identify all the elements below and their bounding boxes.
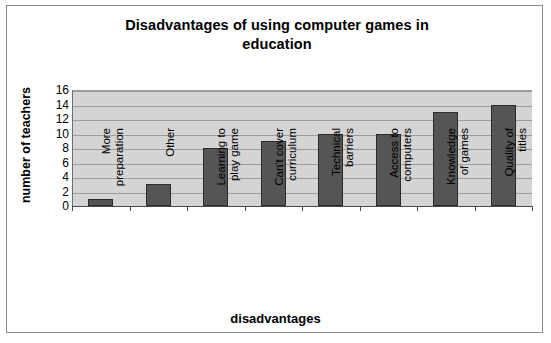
x-axis-category-label: Access to — [388, 128, 401, 214]
y-axis-tick-label: 6 — [47, 157, 69, 169]
x-axis-tickmark — [72, 207, 73, 211]
y-axis-tick-label: 8 — [47, 142, 69, 154]
x-axis-category-label: computers — [401, 128, 414, 214]
x-axis-category-label: preparation — [113, 128, 126, 214]
chart-container: Disadvantages of using computer games in… — [6, 5, 543, 333]
x-axis-tickmark — [360, 207, 361, 211]
gridline — [73, 120, 532, 121]
chart-title: Disadvantages of using computer games in… — [47, 16, 507, 54]
x-axis-category-label: barriers — [343, 128, 356, 214]
y-axis-tick-label: 0 — [47, 200, 69, 212]
y-axis-tick-label: 12 — [47, 113, 69, 125]
x-axis-tickmark — [302, 207, 303, 211]
x-axis-category-label: play game — [228, 128, 241, 214]
y-axis-tick-labels: 1614121086420 — [43, 6, 69, 333]
x-axis-tickmark — [245, 207, 246, 211]
y-axis-tick-label: 14 — [47, 99, 69, 111]
x-axis-category-label: Knowledge — [445, 128, 458, 214]
x-axis-category-label: Technical — [330, 128, 343, 214]
x-axis-tickmark — [417, 207, 418, 211]
x-axis-category-label: curriculum — [286, 128, 299, 214]
x-axis-category-label: Can't cover — [273, 128, 286, 214]
chart-title-line-2: education — [47, 35, 507, 54]
y-axis-tick-label: 4 — [47, 171, 69, 183]
x-axis-tickmark — [532, 207, 533, 211]
x-axis-tickmark — [187, 207, 188, 211]
x-axis-category-label: Quality of — [503, 128, 516, 214]
x-axis-category-label: More — [100, 128, 113, 214]
x-axis-title: disadvantages — [7, 311, 543, 326]
y-axis-tick-label: 16 — [47, 84, 69, 96]
x-axis-category-label: titles — [516, 128, 529, 214]
y-axis-title: number of teachers — [19, 70, 33, 220]
x-axis-category-label: Other — [164, 128, 177, 214]
x-axis-category-label: Learning to — [215, 128, 228, 214]
x-axis-tickmark — [475, 207, 476, 211]
y-axis-tick-label: 2 — [47, 186, 69, 198]
gridline — [73, 91, 532, 92]
gridline — [73, 106, 532, 107]
x-axis-tickmark — [130, 207, 131, 211]
x-axis-category-label: of games — [458, 128, 471, 214]
y-axis-tick-label: 10 — [47, 128, 69, 140]
chart-title-line-1: Disadvantages of using computer games in — [47, 16, 507, 35]
